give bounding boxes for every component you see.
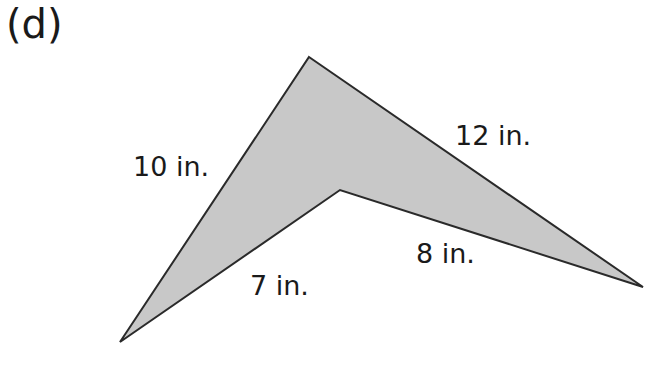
dart-shape-figure — [0, 0, 671, 377]
side-label-10: 10 in. — [133, 153, 209, 180]
dart-polygon — [120, 57, 643, 342]
side-label-12: 12 in. — [455, 122, 531, 149]
side-label-8: 8 in. — [416, 240, 475, 267]
side-label-7: 7 in. — [250, 272, 309, 299]
